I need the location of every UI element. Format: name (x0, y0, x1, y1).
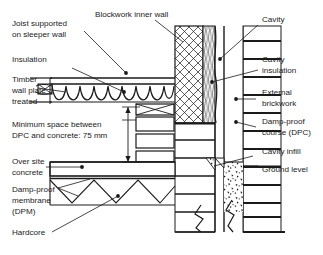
label-timber-wall-plate-line2: wall plate (11, 86, 46, 95)
label-over-site-concrete-line2: concrete (12, 168, 44, 177)
blockwork-inner-wall (175, 26, 203, 123)
over-site-concrete (50, 162, 175, 176)
label-cavity-line1: Cavity (262, 15, 285, 24)
label-over-site-concrete-line1: Over site (12, 157, 45, 166)
label-insulation: Insulation (12, 55, 47, 64)
label-cavity-infill: Cavity infill (262, 147, 301, 156)
label-blockwork-inner-wall-line1: Blockwork inner wall (95, 10, 169, 19)
label-hardcore-line1: Hardcore (12, 228, 46, 237)
label-cavity-insulation-line2: insulation (262, 66, 296, 75)
diagram-root: Joist supported on sleeper wall Insulati… (0, 0, 323, 255)
construction-detail-drawing: Joist supported on sleeper wall Insulati… (0, 0, 323, 255)
label-damp-proof-membrane-line1: Damp-proof (12, 185, 55, 194)
label-ground-level: Ground level (262, 165, 308, 174)
label-minimum-space-line1: Minimum space between (12, 120, 102, 129)
label-cavity: Cavity (262, 15, 285, 24)
label-cavity-insulation-line1: Cavity (262, 55, 285, 64)
label-timber-wall-plate-line3: treated (12, 97, 37, 106)
label-external-brickwork-line2: brickwork (262, 99, 297, 108)
label-timber-wall-plate-line1: Timber (12, 75, 37, 84)
label-ground-level-line1: Ground level (262, 165, 308, 174)
label-cavity-infill-line1: Cavity infill (262, 147, 301, 156)
label-blockwork-inner-wall: Blockwork inner wall (95, 10, 169, 19)
label-minimum-space-line2: DPC and concrete: 75 mm (12, 131, 108, 140)
label-joist-supported-line2: on sleeper wall (12, 30, 66, 39)
label-damp-proof-membrane-line2: membrane (12, 196, 51, 205)
cavity-insulation (203, 26, 217, 123)
label-insulation-line1: Insulation (12, 55, 47, 64)
cavity-infill (224, 162, 243, 212)
label-external-brickwork-line1: External (262, 88, 292, 97)
label-hardcore: Hardcore (12, 228, 46, 237)
label-damp-proof-course-line1: Damp-proof (262, 117, 305, 126)
label-joist-supported-line1: Joist supported (12, 19, 67, 28)
label-damp-proof-course-line2: course (DPC) (262, 128, 311, 137)
label-damp-proof-membrane-line3: (DPM) (12, 207, 36, 216)
